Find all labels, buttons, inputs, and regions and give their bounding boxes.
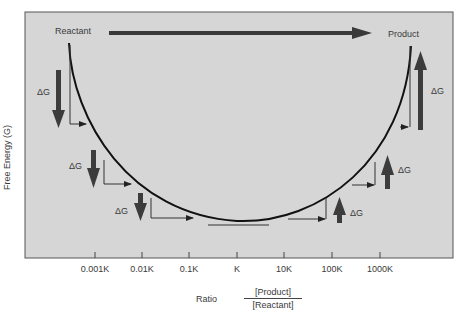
reactant-label: Reactant xyxy=(55,26,91,36)
tick-10k: 10K xyxy=(276,264,292,274)
delta-g-label-5: ΔG xyxy=(398,165,411,175)
delta-g-label-6: ΔG xyxy=(431,86,444,96)
delta-g-label-1: ΔG xyxy=(37,87,50,97)
fraction-denominator: [Reactant] xyxy=(244,299,302,310)
tick-0.001k: 0.001K xyxy=(81,264,110,274)
x-axis-label: Ratio xyxy=(196,294,217,304)
tick-k: K xyxy=(234,264,240,274)
tick-100k: 100K xyxy=(321,264,342,274)
delta-g-label-2: ΔG xyxy=(69,161,82,171)
tick-1000k: 1000K xyxy=(367,264,393,274)
y-axis-label: Free Energy (G) xyxy=(2,125,12,190)
product-label: Product xyxy=(388,29,419,39)
fraction-numerator: [Product] xyxy=(244,287,302,299)
delta-g-label-4: ΔG xyxy=(350,208,363,218)
delta-g-label-3: ΔG xyxy=(115,206,128,216)
ratio-fraction: [Product] [Reactant] xyxy=(244,287,302,310)
tick-0.1k: 0.1K xyxy=(180,264,199,274)
tick-0.01k: 0.01K xyxy=(130,264,154,274)
